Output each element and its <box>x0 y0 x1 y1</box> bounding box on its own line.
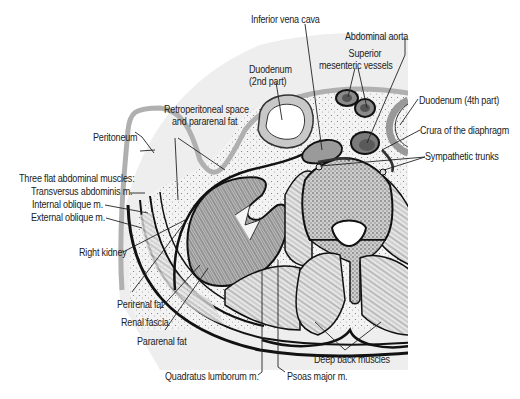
label-deep-back-muscles: Deep back muscles <box>314 353 390 365</box>
label-internal-oblique: Internal oblique m. <box>32 198 103 210</box>
label-transversus-abdominis: Transversus abdominis m. <box>31 185 132 197</box>
label-sympathetic-trunks: Sympathetic trunks <box>425 150 499 162</box>
label-retroperitoneal-line2: and pararenal fat <box>172 115 237 127</box>
label-abdominal-aorta: Abdominal aorta <box>345 30 408 42</box>
label-external-oblique: External oblique m. <box>31 211 105 223</box>
label-psoas-major: Psoas major m. <box>287 370 347 382</box>
label-crura-of-diaphragm: Crura of the diaphragm <box>420 124 509 136</box>
label-peritoneum: Peritoneum <box>93 131 137 143</box>
label-perirenal-fat: Perirenal fat <box>117 298 163 310</box>
sympathetic-trunk-left <box>316 164 322 170</box>
anatomy-diagram: Inferior vena cava Abdominal aorta Super… <box>0 0 520 399</box>
label-duodenum-2nd-line2: (2nd part) <box>249 75 286 87</box>
label-duodenum-4th: Duodenum (4th part) <box>419 94 499 106</box>
label-superior-mesenteric-line2: mesenteric vessels <box>319 59 393 71</box>
label-renal-fascia: Renal fascia <box>121 316 169 328</box>
label-right-kidney: Right kidney <box>79 246 127 258</box>
label-quadratus-lumborum: Quadratus lumborum m. <box>165 370 259 382</box>
label-inferior-vena-cava: Inferior vena cava <box>251 13 320 25</box>
label-retroperitoneal-line1: Retroperitoneal space <box>164 103 249 115</box>
label-pararenal-fat: Pararenal fat <box>137 335 186 347</box>
label-duodenum-2nd-line1: Duodenum <box>249 63 292 75</box>
label-superior-mesenteric-line1: Superior <box>331 47 400 59</box>
label-three-flat-muscles: Three flat abdominal muscles: <box>19 172 134 184</box>
